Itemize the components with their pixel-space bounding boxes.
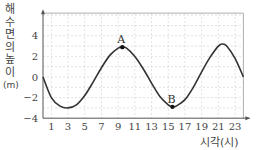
svg-text:13: 13 <box>145 121 158 132</box>
grid <box>43 13 243 118</box>
chart-svg: 1357911131517192123−4−2024 AB <box>0 0 257 150</box>
tick-labels: 1357911131517192123−4−2024 <box>23 30 241 132</box>
svg-text:−2: −2 <box>23 92 38 103</box>
svg-text:0: 0 <box>32 72 38 83</box>
svg-text:17: 17 <box>179 121 192 132</box>
point-label-a: A <box>116 33 126 46</box>
svg-text:19: 19 <box>195 121 208 132</box>
svg-text:11: 11 <box>128 121 141 132</box>
svg-text:1: 1 <box>48 121 54 132</box>
svg-text:5: 5 <box>82 121 88 132</box>
point-label-b: B <box>167 93 175 106</box>
svg-text:21: 21 <box>212 121 225 132</box>
svg-text:3: 3 <box>65 121 71 132</box>
svg-text:2: 2 <box>32 51 38 62</box>
svg-text:15: 15 <box>162 121 175 132</box>
sea-level-curve <box>43 44 243 108</box>
svg-text:7: 7 <box>98 121 104 132</box>
svg-text:4: 4 <box>32 30 38 41</box>
svg-text:9: 9 <box>115 121 121 132</box>
svg-text:−4: −4 <box>23 113 38 124</box>
svg-text:23: 23 <box>229 121 242 132</box>
x-axis-label: 시각(시) <box>200 133 239 149</box>
annotation-points: AB <box>116 33 175 109</box>
